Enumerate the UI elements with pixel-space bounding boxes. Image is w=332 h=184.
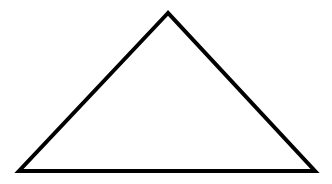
diagram-canvas: [0, 0, 332, 184]
